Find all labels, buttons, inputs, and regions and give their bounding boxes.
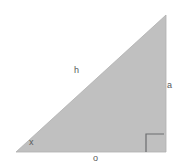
hypotenuse-label: h bbox=[74, 66, 79, 75]
right-triangle-shape bbox=[16, 15, 166, 152]
right-triangle-figure: h a x o bbox=[0, 0, 185, 168]
adjacent-side-label: o bbox=[93, 154, 98, 163]
opposite-side-label: a bbox=[167, 81, 172, 90]
triangle-canvas bbox=[0, 0, 185, 168]
angle-label-x: x bbox=[29, 138, 34, 147]
